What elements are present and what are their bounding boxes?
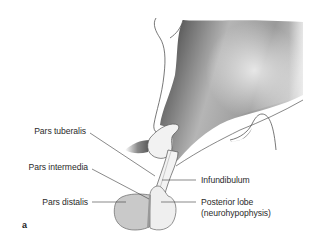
pars-distalis-shape	[114, 194, 150, 230]
label-pars-tuberalis: Pars tuberalis	[20, 126, 86, 136]
leader-pars-tuberalis	[90, 133, 155, 176]
pituitary-diagram: Pars tuberalis Pars intermedia Pars dist…	[0, 0, 321, 235]
label-infundibulum: Infundibulum	[201, 175, 250, 185]
label-neurohypophysis: (neurohypophysis)	[201, 208, 271, 218]
optic-chiasm	[125, 140, 150, 153]
leader-pars-intermedia	[92, 169, 149, 199]
label-pars-distalis: Pars distalis	[26, 197, 88, 207]
label-pars-intermedia: Pars intermedia	[15, 162, 88, 172]
label-posterior-lobe: Posterior lobe	[201, 197, 253, 207]
panel-letter: a	[22, 220, 27, 230]
posterior-lobe-shape	[150, 186, 176, 230]
